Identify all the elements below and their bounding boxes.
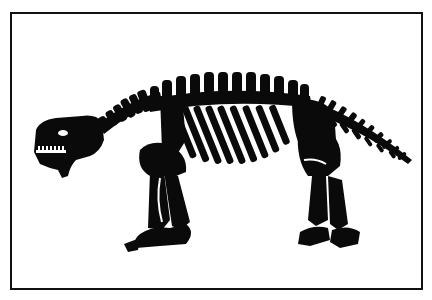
hind-leg <box>298 127 360 248</box>
dinosaur-skeleton-illustration <box>0 0 432 300</box>
front-leg <box>124 143 191 252</box>
ribs <box>170 104 291 165</box>
skull <box>34 116 104 178</box>
